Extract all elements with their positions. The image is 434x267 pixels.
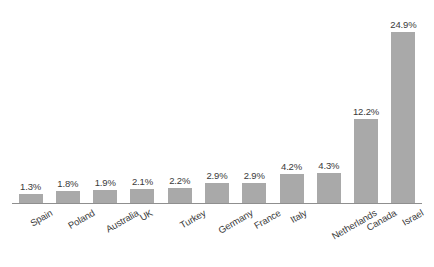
bar-spain: 1.3% bbox=[12, 8, 49, 203]
x-tick-uk: UK bbox=[124, 205, 161, 265]
bar-rect bbox=[354, 119, 378, 203]
x-tick-australia: Australia bbox=[87, 205, 124, 265]
x-tick-netherlands: Netherlands bbox=[310, 205, 347, 265]
x-tick-spain: Spain bbox=[12, 205, 49, 265]
x-axis-baseline bbox=[12, 203, 422, 204]
x-axis-tick-labels: SpainPolandAustraliaUKTurkeyGermanyFranc… bbox=[12, 205, 422, 265]
bar-turkey: 2.2% bbox=[161, 8, 198, 203]
x-tick-label-text: Italy bbox=[288, 207, 308, 225]
x-tick-label-text: UK bbox=[138, 207, 155, 223]
bar-value-label: 24.9% bbox=[390, 19, 416, 30]
bar-value-label: 2.1% bbox=[132, 176, 153, 187]
bar-value-label: 2.9% bbox=[206, 170, 227, 181]
bar-rect bbox=[19, 194, 43, 203]
plot-area: 1.3%1.8%1.9%2.1%2.2%2.9%2.9%4.2%4.3%12.2… bbox=[12, 8, 422, 203]
bar-value-label: 2.9% bbox=[244, 170, 265, 181]
bar-rect bbox=[280, 174, 304, 203]
bar-value-label: 1.8% bbox=[57, 178, 78, 189]
bar-germany: 2.9% bbox=[198, 8, 235, 203]
bar-rect bbox=[391, 32, 415, 203]
bar-value-label: 1.3% bbox=[20, 181, 41, 192]
bar-australia: 1.9% bbox=[87, 8, 124, 203]
bar-poland: 1.8% bbox=[49, 8, 86, 203]
bar-italy: 4.2% bbox=[273, 8, 310, 203]
x-tick-poland: Poland bbox=[49, 205, 86, 265]
bar-rect bbox=[242, 183, 266, 203]
bar-value-label: 1.9% bbox=[95, 177, 116, 188]
x-tick-germany: Germany bbox=[198, 205, 235, 265]
bar-rect bbox=[56, 191, 80, 203]
bar-chart: 1.3%1.8%1.9%2.1%2.2%2.9%2.9%4.2%4.3%12.2… bbox=[0, 0, 434, 267]
bar-canada: 12.2% bbox=[347, 8, 384, 203]
bar-rect bbox=[93, 190, 117, 203]
x-tick-turkey: Turkey bbox=[161, 205, 198, 265]
bar-rect bbox=[130, 189, 154, 203]
bar-netherlands: 4.3% bbox=[310, 8, 347, 203]
bar-value-label: 12.2% bbox=[353, 106, 379, 117]
bar-value-label: 4.2% bbox=[281, 161, 302, 172]
bar-rect bbox=[168, 188, 192, 203]
x-tick-israel: Israel bbox=[385, 205, 422, 265]
x-tick-canada: Canada bbox=[347, 205, 384, 265]
x-tick-italy: Italy bbox=[273, 205, 310, 265]
x-tick-france: France bbox=[236, 205, 273, 265]
bar-rect bbox=[205, 183, 229, 203]
x-tick-label-text: Israel bbox=[400, 207, 425, 228]
bar-israel: 24.9% bbox=[385, 8, 422, 203]
bar-uk: 2.1% bbox=[124, 8, 161, 203]
bar-value-label: 2.2% bbox=[169, 175, 190, 186]
bar-france: 2.9% bbox=[236, 8, 273, 203]
bar-rect bbox=[317, 173, 341, 203]
bar-value-label: 4.3% bbox=[318, 160, 339, 171]
